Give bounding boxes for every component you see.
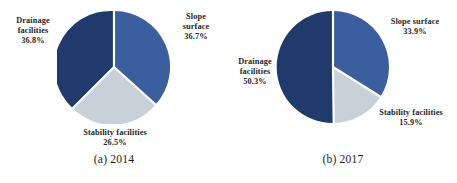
label-slope-name: Slope surface [391,17,440,26]
label-slope-surface-2014: Slope surface 36.7% [168,12,224,43]
pie-chart-figure: Drainage facilities 36.8% Slope surface … [0,0,457,183]
panel-2014: Drainage facilities 36.8% Slope surface … [0,0,228,183]
label-drainage-name-line1: Drainage [238,57,272,66]
label-drainage-percent: 50.3% [224,77,286,87]
label-drainage-facilities-2017: Drainage facilities 50.3% [224,57,286,88]
label-slope-name-line1: Slope [186,12,206,21]
label-slope-percent: 36.7% [168,32,224,42]
label-slope-percent: 33.9% [372,27,457,37]
pie-svg-2014 [57,10,171,124]
label-stability-percent: 26.5% [56,138,174,148]
label-slope-surface-2017: Slope surface 33.9% [372,17,457,37]
label-stability-percent: 15.9% [365,118,457,128]
label-stability-facilities-2017: Stability facilities 15.9% [365,108,457,128]
label-slope-name-line2: surface [183,22,210,31]
label-drainage-name-line2: facilities [18,26,49,35]
label-stability-name: Stability facilities [379,108,443,117]
label-drainage-name-line2: facilities [240,67,271,76]
label-drainage-percent: 36.8% [4,36,62,46]
pie-chart-2014 [57,10,171,124]
label-drainage-name-line1: Drainage [16,16,50,25]
label-drainage-facilities-2014: Drainage facilities 36.8% [4,16,62,47]
label-stability-facilities-2014: Stability facilities 26.5% [56,128,174,148]
label-stability-name: Stability facilities [83,128,147,137]
caption-2014: (a) 2014 [0,153,228,166]
panel-2017: Drainage facilities 50.3% Slope surface … [229,0,457,183]
caption-2017: (b) 2017 [229,153,457,166]
